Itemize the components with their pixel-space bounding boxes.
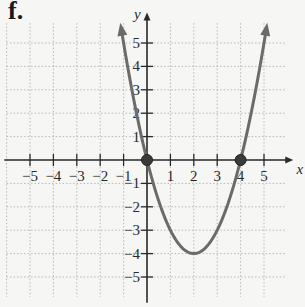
- parabola-chart: xy −5−4−3−2−112345−5−4−3−2−112345: [0, 0, 305, 307]
- x-tick-label: 1: [167, 168, 175, 184]
- y-tick-label: −4: [124, 246, 140, 262]
- y-tick-label: 4: [133, 58, 141, 74]
- x-tick-label: 3: [213, 168, 221, 184]
- intercept-point: [235, 155, 246, 166]
- x-tick-label: 5: [260, 168, 268, 184]
- x-axis-label: x: [295, 161, 303, 177]
- y-tick-label: −2: [124, 199, 140, 215]
- x-tick-label: −3: [69, 168, 85, 184]
- parabola-curve: [117, 23, 270, 254]
- y-tick-label: −5: [124, 269, 140, 285]
- x-tick-label: −2: [92, 168, 108, 184]
- x-tick-label: −5: [22, 168, 38, 184]
- y-tick-label: −1: [124, 175, 140, 191]
- y-tick-label: −3: [124, 222, 140, 238]
- axes: xy: [4, 6, 303, 303]
- x-axis-arrow-icon: [285, 157, 293, 164]
- x-tick-label: −4: [45, 168, 61, 184]
- right-arrow-icon: [260, 23, 270, 37]
- y-axis-label: y: [132, 6, 141, 22]
- left-arrow-icon: [117, 23, 127, 37]
- x-tick-label: 2: [190, 168, 198, 184]
- y-tick-label: 5: [133, 35, 141, 51]
- y-axis-arrow-icon: [144, 13, 151, 21]
- intercept-point: [142, 155, 153, 166]
